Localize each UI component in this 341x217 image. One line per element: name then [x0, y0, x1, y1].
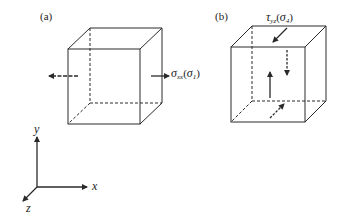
panel-label-b: (b)	[215, 11, 228, 22]
cube-b	[231, 26, 326, 122]
stress-diagram	[0, 0, 341, 217]
x-axis-label: x	[92, 180, 97, 192]
cube-a	[68, 28, 162, 124]
coordinate-axes	[23, 137, 87, 201]
arrow-top-face-icon	[273, 28, 287, 42]
stress-label-b: τyz(σ4)	[266, 8, 293, 25]
y-axis-label: y	[34, 123, 39, 135]
panel-label-a: (a)	[40, 11, 52, 22]
z-axis-icon	[23, 187, 37, 201]
z-axis-label: z	[26, 202, 31, 214]
stress-label-a: σxx(σ1)	[171, 64, 200, 81]
arrow-bottom-face-icon	[270, 104, 284, 118]
shear-stress-arrows	[270, 28, 287, 118]
